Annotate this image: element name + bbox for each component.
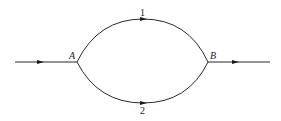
branch-2-label: 2 xyxy=(140,105,145,116)
inflow-edge xyxy=(15,60,77,64)
arrow-right-icon xyxy=(232,60,239,64)
branch-1-edge xyxy=(77,17,208,62)
outflow-edge xyxy=(208,60,270,64)
parallel-branch-diagram: A B 1 2 xyxy=(0,0,281,121)
branch-1-label: 1 xyxy=(140,7,145,18)
node-a-label: A xyxy=(68,50,76,61)
node-b-label: B xyxy=(210,50,216,61)
arrow-right-icon xyxy=(37,60,44,64)
branch-2-edge xyxy=(77,62,208,105)
